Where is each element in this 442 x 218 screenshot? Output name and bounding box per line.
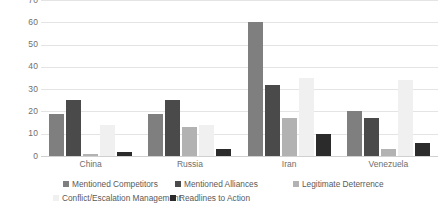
bar <box>148 114 163 156</box>
legend-swatch-icon <box>53 195 59 201</box>
bar <box>83 154 98 156</box>
y-axis-tick-label: 70 <box>8 0 38 5</box>
legend-item[interactable]: Mentioned Competitors <box>63 179 158 189</box>
plot-area: 706050403020100 ChinaRussiaIranVenezuela <box>0 0 442 162</box>
legend-swatch-icon <box>293 181 299 187</box>
x-axis-category-label: China <box>41 159 140 170</box>
bar-group <box>240 0 339 156</box>
bar <box>316 134 331 156</box>
bar <box>347 111 362 156</box>
legend-item[interactable]: Legitimate Deterrence <box>293 179 384 189</box>
y-axis-tick-label: 40 <box>8 62 38 71</box>
bar <box>299 78 314 156</box>
bar-groups <box>41 0 438 156</box>
bar-group <box>41 0 140 156</box>
x-axis-category-label: Venezuela <box>339 159 438 170</box>
bar <box>117 152 132 156</box>
legend-swatch-icon <box>63 181 69 187</box>
y-axis-tick-label: 0 <box>8 152 38 161</box>
legend-item[interactable]: Mentioned Alliances <box>175 179 258 189</box>
legend-label: Mentioned Alliances <box>184 179 258 189</box>
x-axis-line <box>41 156 438 157</box>
y-axis-tick-label: 10 <box>8 129 38 138</box>
bar <box>265 85 280 156</box>
legend-row-2: Conflict/Escalation ManagementReadlines … <box>0 192 442 206</box>
legend-label: Mentioned Competitors <box>72 179 158 189</box>
bar <box>66 100 81 156</box>
bar <box>182 127 197 156</box>
y-axis-tick-label: 50 <box>8 40 38 49</box>
bar-group <box>140 0 239 156</box>
bar-chart: 706050403020100 ChinaRussiaIranVenezuela… <box>0 0 442 218</box>
bar <box>199 125 214 156</box>
legend-swatch-icon <box>175 181 181 187</box>
x-axis-category-label: Iran <box>240 159 339 170</box>
y-axis-tick-label: 60 <box>8 18 38 27</box>
bar <box>100 125 115 156</box>
bar <box>165 100 180 156</box>
y-axis: 706050403020100 <box>8 0 38 162</box>
bar <box>49 114 64 156</box>
bar-group <box>339 0 438 156</box>
legend-item[interactable]: Conflict/Escalation Management <box>53 193 181 203</box>
legend-label: Readlines to Action <box>179 193 250 203</box>
chart-legend: Mentioned CompetitorsMentioned Alliances… <box>0 178 442 214</box>
y-axis-tick-label: 30 <box>8 85 38 94</box>
bar <box>415 143 430 156</box>
bar <box>216 149 231 156</box>
legend-item[interactable]: Readlines to Action <box>170 193 250 203</box>
bar <box>248 22 263 156</box>
x-axis-category-label: Russia <box>140 159 239 170</box>
y-axis-tick-label: 20 <box>8 107 38 116</box>
legend-label: Legitimate Deterrence <box>302 179 384 189</box>
legend-label: Conflict/Escalation Management <box>62 193 181 203</box>
bar <box>381 149 396 156</box>
legend-swatch-icon <box>170 195 176 201</box>
x-axis-labels: ChinaRussiaIranVenezuela <box>41 159 438 175</box>
bar <box>398 80 413 156</box>
bar <box>364 118 379 156</box>
bar <box>282 118 297 156</box>
legend-row-1: Mentioned CompetitorsMentioned Alliances… <box>0 178 442 192</box>
